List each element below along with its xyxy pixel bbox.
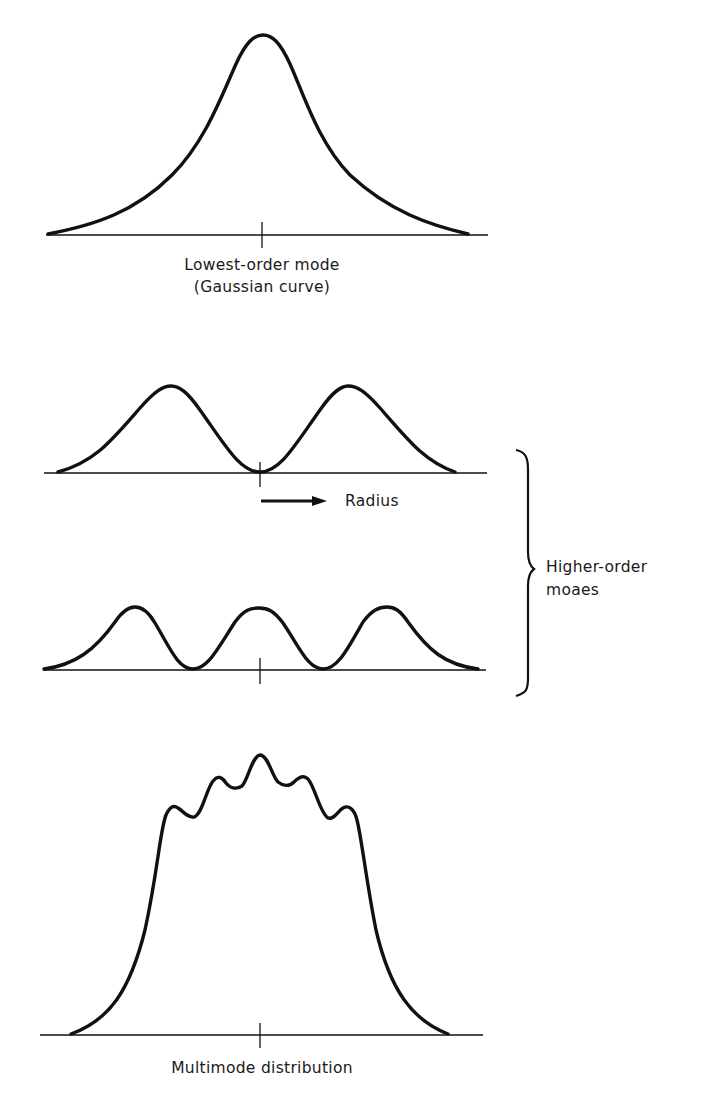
figure-caption-clipped	[33, 1097, 333, 1104]
three-lobe-curve	[44, 607, 478, 669]
three-lobe-panel	[43, 607, 486, 684]
gaussian-curve	[48, 35, 468, 234]
multimode-panel	[40, 755, 483, 1048]
higher-order-label-line1: Higher-order	[546, 557, 647, 577]
multimode-label: Multimode distribution	[171, 1058, 353, 1078]
gaussian-label-line1: Lowest-order mode	[184, 255, 339, 275]
two-lobe-panel	[44, 386, 487, 487]
higher-order-label-line2: moaes	[546, 580, 599, 600]
gaussian-label-line2: (Gaussian curve)	[194, 277, 330, 297]
curly-brace	[516, 450, 534, 696]
radius-label: Radius	[345, 491, 399, 511]
gaussian-panel	[46, 35, 488, 248]
multimode-curve	[71, 755, 448, 1034]
mode-distribution-figure	[0, 0, 702, 1104]
right-arrow-icon	[261, 496, 327, 506]
two-lobe-curve	[58, 386, 455, 472]
